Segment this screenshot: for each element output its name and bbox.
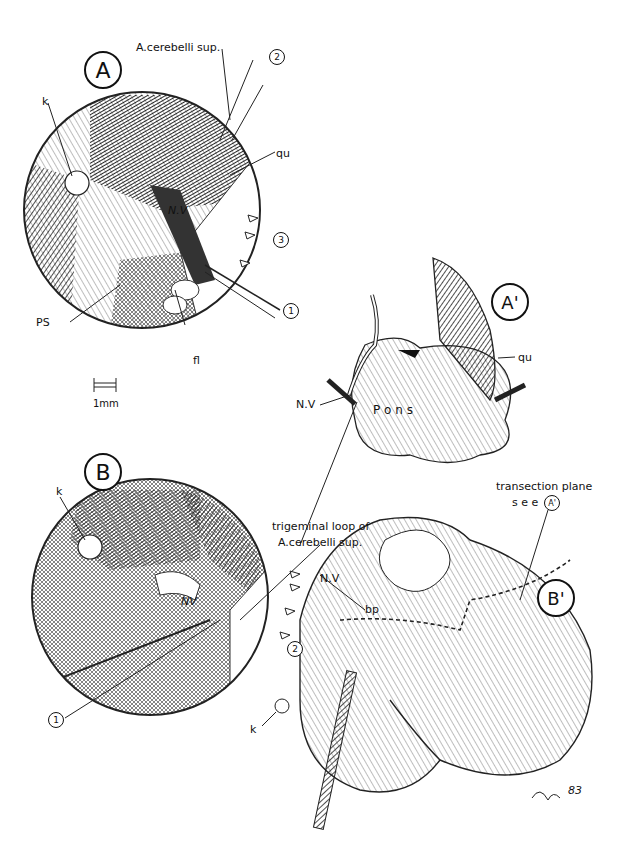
- label-nv-b-prime: N.V: [320, 573, 339, 584]
- panel-label-a-prime: A': [491, 283, 529, 321]
- k-marker-a: [65, 171, 89, 195]
- marker-2-a: 2: [269, 49, 285, 65]
- label-nv-a: N.V: [168, 205, 187, 216]
- ref-a-prime: A': [544, 495, 560, 511]
- label-trigeminal-loop-2: A.cerebelli sup.: [278, 537, 362, 548]
- panel-label-b-prime: B': [537, 579, 575, 617]
- label-a-cerebelli-sup: A.cerebelli sup.: [136, 42, 220, 53]
- marker-3-a: 3: [273, 232, 289, 248]
- label-pons: P o n s: [373, 404, 413, 416]
- label-qu-a: qu: [276, 148, 290, 159]
- panel-label-b: B: [84, 453, 122, 491]
- label-k-a: k: [42, 96, 48, 107]
- panel-b-view: [30, 478, 280, 720]
- label-k-b: k: [56, 486, 62, 497]
- label-qu-a-prime: qu: [518, 352, 532, 363]
- k-marker-b: [78, 535, 102, 559]
- label-transection-plane-2: s e e: [512, 497, 538, 508]
- scale-bar-label: 1mm: [93, 399, 119, 409]
- panel-a-view: [20, 90, 270, 330]
- label-bp: bp: [365, 604, 379, 615]
- label-nv-b: NV: [181, 596, 197, 607]
- illustration-linework: [0, 0, 622, 849]
- panel-b-prime-view: [262, 510, 592, 829]
- marker-2-b: 2: [287, 641, 303, 657]
- label-trigeminal-loop-1: trigeminal loop of: [272, 521, 369, 532]
- label-nv-a-prime: N.V: [296, 399, 315, 410]
- label-ps: PS: [36, 317, 50, 328]
- label-k-b-prime: k: [250, 724, 256, 735]
- label-transection-plane-1: transection plane: [496, 481, 592, 492]
- marker-1-b: 1: [48, 712, 64, 728]
- marker-1-a: 1: [283, 303, 299, 319]
- artist-signature: 83: [568, 785, 582, 796]
- scale-bar-lines: [94, 378, 116, 392]
- panel-label-a: A: [84, 51, 122, 89]
- label-fl: fl: [193, 355, 200, 366]
